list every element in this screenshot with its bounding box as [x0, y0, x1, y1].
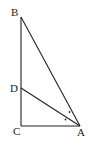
angle-mark-bad [69, 111, 71, 113]
label-a: A [77, 126, 85, 138]
segment-ad [21, 88, 80, 126]
angle-mark-dac [65, 119, 67, 121]
label-b: B [11, 6, 18, 18]
label-d: D [10, 82, 18, 94]
geometry-diagram: B D C A [0, 0, 92, 148]
segment-ab [21, 17, 80, 126]
label-c: C [13, 125, 20, 137]
